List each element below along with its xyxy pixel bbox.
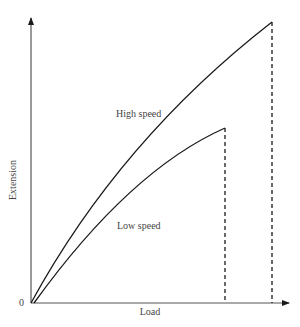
low-speed-curve (34, 128, 225, 303)
x-axis-label: Load (140, 307, 161, 317)
high-speed-curve (31, 22, 272, 303)
low-speed-label: Low speed (117, 221, 161, 231)
chart-canvas (0, 0, 300, 327)
origin-label: 0 (19, 298, 24, 308)
high-speed-label: High speed (116, 109, 161, 119)
y-axis-label: Extension (8, 160, 18, 200)
